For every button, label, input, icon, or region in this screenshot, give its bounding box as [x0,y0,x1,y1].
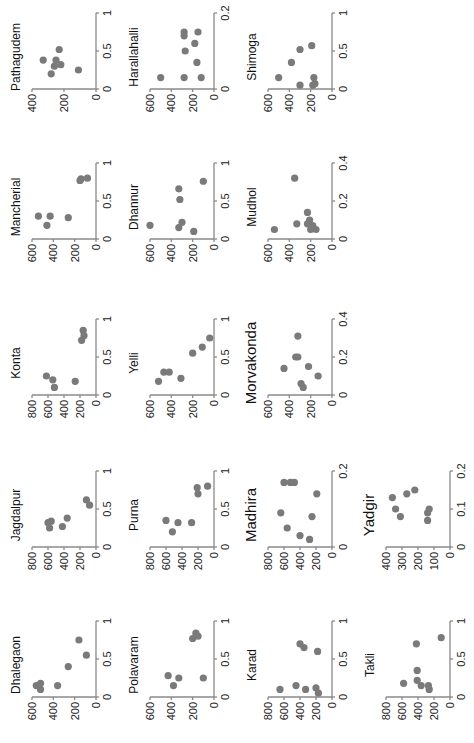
panel-title: Pathagudem [9,23,23,91]
y-tick-label: 0 [90,94,102,100]
data-point [84,175,91,182]
x-tick-label: 0.2 [337,193,349,208]
x-tick-label: 1 [101,618,113,624]
panel-title: Karad [245,649,259,681]
data-point [65,663,72,670]
y-tick-label: 400 [26,94,38,112]
y-tick-label: 800 [26,552,38,570]
x-tick-label: 0 [219,236,231,242]
data-point [77,175,84,182]
data-point [193,59,200,66]
y-tick-label: 200 [192,552,204,570]
axis-lines [268,163,332,239]
x-tick-label: 1 [219,316,231,322]
data-point [206,334,213,341]
data-point [300,384,307,391]
y-tick-label: 600 [278,702,290,720]
data-point [392,505,399,512]
x-tick-label: 1 [337,618,349,624]
y-tick-label: 400 [165,400,177,418]
data-point [411,486,418,493]
x-tick-label: 0 [455,544,467,550]
y-tick-label: 800 [144,552,156,570]
scatter-panel-dhalegaon: Dhalegaon020040060000.51 [4,613,118,733]
x-tick-label: 0.2 [337,349,349,364]
data-point [315,690,322,697]
scatter-panel-mancherial: Mancherial020040060000.51 [4,155,118,275]
data-point [280,365,287,372]
panel-title: Dhalegaon [9,636,23,694]
y-tick-label: 400 [380,552,392,570]
axis-lines [32,163,96,239]
scatter-panel-yadgir: Yadgir010020030040000.10.2 [358,463,472,583]
data-point [302,686,309,693]
data-point [157,74,164,81]
x-tick-label: 1 [219,468,231,474]
y-tick-label: 200 [187,244,199,262]
data-point [276,686,283,693]
y-tick-label: 800 [262,552,274,570]
data-point [37,680,44,687]
y-tick-label: 400 [165,244,177,262]
y-tick-label: 400 [283,94,295,112]
y-tick-label: 400 [294,702,306,720]
x-tick-label: 0.5 [455,651,467,666]
scatter-panel-takli: Takli020040060080000.51 [358,613,472,733]
data-point [413,640,420,647]
data-point [204,483,211,490]
x-tick-label: 0 [219,86,231,92]
y-tick-label: 400 [412,702,424,720]
x-tick-label: 0 [219,694,231,700]
y-tick-label: 100 [428,552,440,570]
y-tick-label: 800 [380,702,392,720]
data-point [200,178,207,185]
y-tick-label: 0 [90,552,102,558]
y-tick-label: 600 [262,400,274,418]
x-tick-label: 1 [219,160,231,166]
panel-title: Mancherial [9,178,23,237]
data-point [426,505,433,512]
data-point [191,40,198,47]
data-point [275,74,282,81]
y-tick-label: 200 [187,400,199,418]
data-point [306,216,313,223]
panel-title: Purna [127,499,141,531]
data-point [310,74,317,81]
data-point [51,63,58,70]
data-point [426,686,433,693]
data-point [48,70,55,77]
x-tick-label: 0.5 [219,651,231,666]
scatter-panel-yelli: Yelli020040060000.51 [122,311,236,431]
data-point [199,344,206,351]
x-tick-label: 0 [219,392,231,398]
x-tick-label: 0.5 [219,501,231,516]
data-point [194,490,201,497]
data-point [424,517,431,524]
y-tick-label: 400 [165,702,177,720]
axis-lines [268,621,332,697]
data-point [313,490,320,497]
data-point [307,226,314,233]
x-tick-label: 0 [337,694,349,700]
data-point [314,648,321,655]
y-tick-label: 600 [144,244,156,262]
y-tick-label: 200 [305,244,317,262]
y-tick-label: 200 [187,702,199,720]
y-tick-label: 400 [283,244,295,262]
y-tick-label: 600 [144,94,156,112]
scatter-panel-purna: Purna020040060080000.51 [122,463,236,583]
data-point [188,519,195,526]
y-tick-label: 200 [58,94,70,112]
data-point [190,228,197,235]
y-tick-label: 400 [58,400,70,418]
y-tick-label: 0 [208,400,220,406]
y-tick-label: 0 [208,244,220,250]
x-tick-label: 0 [455,694,467,700]
panel-title: Mudhol [245,187,259,226]
y-tick-label: 0 [90,244,102,250]
data-point [83,496,90,503]
data-point [305,363,312,370]
data-point [43,222,50,229]
data-point [47,213,54,220]
y-tick-label: 0 [326,400,338,406]
